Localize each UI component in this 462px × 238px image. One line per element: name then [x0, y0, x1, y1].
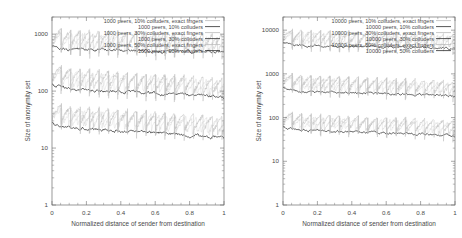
y-tick-label: 10: [272, 157, 279, 164]
y-axis-title: Size of anonymity set: [24, 80, 32, 141]
x-tick-label: 0.2: [82, 209, 91, 216]
x-tick-label: 0.4: [347, 209, 356, 216]
x-tick-label: 1: [222, 209, 226, 216]
plot-left: 110100100000.20.40.60.81Normalized dista…: [0, 0, 231, 238]
legend-label: 1000 peers, 50% colluders: [138, 48, 203, 54]
y-tick-label: 1: [45, 201, 49, 208]
y-tick-label: 10: [41, 144, 48, 151]
panel-right: 11010010001000000.20.40.60.81Normalized …: [231, 0, 462, 238]
x-tick-label: 0: [281, 209, 285, 216]
panel-left: 110100100000.20.40.60.81Normalized dista…: [0, 0, 231, 238]
x-tick-label: 0: [50, 209, 54, 216]
x-tick-label: 0.4: [116, 209, 125, 216]
y-tick-label: 1: [276, 201, 280, 208]
x-tick-label: 0.8: [416, 209, 425, 216]
y-tick-label: 1000: [34, 30, 48, 37]
y-tick-label: 100: [269, 114, 280, 121]
x-axis-title: Normalized distance of sender from desti…: [71, 220, 205, 227]
x-tick-label: 0.6: [151, 209, 160, 216]
y-tick-label: 10000: [262, 26, 280, 33]
x-tick-label: 0.2: [313, 209, 322, 216]
x-tick-label: 1: [453, 209, 457, 216]
x-tick-label: 0.8: [185, 209, 194, 216]
plot-right: 11010010001000000.20.40.60.81Normalized …: [231, 0, 462, 238]
y-tick-label: 100: [38, 87, 49, 94]
y-axis-title: Size of anonymity set: [255, 80, 263, 141]
y-tick-label: 1000: [265, 70, 279, 77]
x-axis-title: Normalized distance of sender from desti…: [302, 220, 436, 227]
legend-label: 10000 peers, 50% colluders: [366, 48, 434, 54]
x-tick-label: 0.6: [382, 209, 391, 216]
figure-two-panel-anonymity-set: 110100100000.20.40.60.81Normalized dista…: [0, 0, 462, 238]
